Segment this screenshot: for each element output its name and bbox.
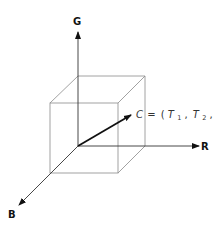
sep1: , — [184, 109, 187, 120]
t1: T — [168, 109, 175, 120]
color-vector-arrow — [78, 115, 131, 146]
vector-equals: = — [147, 109, 155, 120]
color-vector-label: C = ( T 1 , T 2 , T 3 ) — [136, 109, 216, 122]
sep2: , — [209, 109, 212, 120]
rgb-cube-diagram: G R B C = ( T 1 , T 2 , T 3 ) — [0, 0, 216, 225]
t2-subscript: 2 — [202, 114, 206, 122]
b-axis-label: B — [8, 209, 16, 220]
cube-front-face — [50, 103, 118, 173]
cube-edge-bottom-right — [118, 146, 145, 173]
g-axis-label: G — [73, 16, 81, 27]
vector-open-paren: ( — [161, 109, 165, 120]
t2: T — [193, 109, 200, 120]
cube-edge-top-right — [118, 76, 145, 103]
b-axis — [19, 146, 78, 205]
t1-subscript: 1 — [177, 114, 181, 122]
cube — [50, 76, 145, 173]
cube-edge-top-left — [50, 76, 78, 103]
r-axis-label: R — [201, 141, 209, 152]
vector-name: C — [136, 109, 143, 120]
